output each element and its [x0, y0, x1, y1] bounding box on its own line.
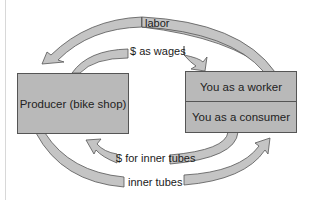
- consumer-label: You as a consumer: [192, 111, 290, 123]
- inner-tubes-label: inner tubes: [128, 176, 182, 188]
- wages-label: $ as wages: [130, 45, 186, 57]
- labor-label: labor: [145, 17, 169, 29]
- producer-node: Producer (bike shop): [17, 73, 129, 134]
- worker-label: You as a worker: [200, 81, 282, 93]
- money-inner-tubes-label: $ for inner tubes: [116, 152, 196, 164]
- worker-node: You as a worker: [185, 71, 297, 102]
- consumer-node: You as a consumer: [185, 101, 297, 133]
- producer-label: Producer (bike shop): [20, 98, 127, 110]
